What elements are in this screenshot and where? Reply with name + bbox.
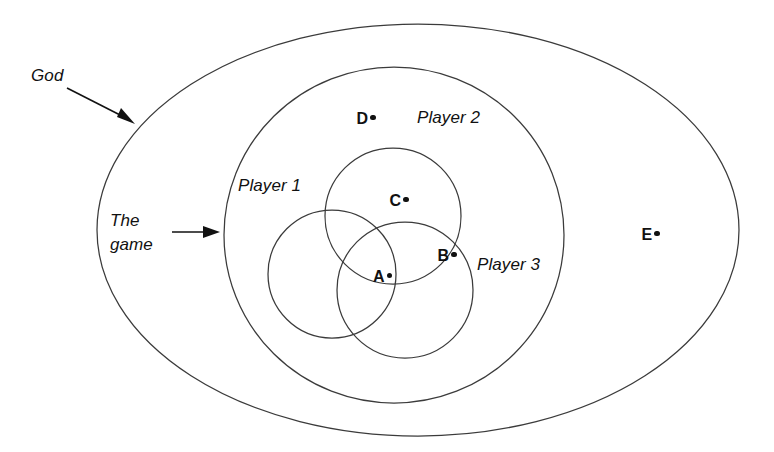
point-dot-icon-e	[654, 231, 660, 237]
point-marker-d: D	[338, 91, 376, 148]
point-marker-c: C	[371, 173, 409, 230]
point-label-c: C	[390, 192, 402, 209]
point-dot-icon-b	[451, 252, 457, 258]
callout-the-game-line2: game	[110, 235, 153, 255]
point-marker-e: E	[623, 207, 660, 264]
point-marker-b: B	[419, 228, 457, 285]
diagram-canvas: God The game Player 1 Player 2 Player 3 …	[0, 0, 774, 452]
the-game-leader-arrow	[172, 226, 220, 238]
point-dot-icon-c	[403, 197, 409, 203]
point-marker-a: A	[355, 249, 392, 306]
callout-the-game-line1: The	[110, 211, 140, 231]
point-dot-icon-a	[387, 273, 393, 279]
region-label-player-1: Player 1	[238, 176, 301, 196]
god-leader-arrow	[67, 88, 135, 124]
inner-ellipse-the-game	[224, 67, 564, 403]
callout-god-label: God	[31, 66, 63, 86]
point-label-a: A	[373, 268, 385, 285]
point-label-d: D	[357, 110, 369, 127]
region-label-player-3: Player 3	[477, 255, 540, 275]
point-dot-icon-d	[370, 115, 376, 121]
point-label-e: E	[642, 226, 653, 243]
point-label-b: B	[438, 247, 450, 264]
region-label-player-2: Player 2	[417, 108, 480, 128]
